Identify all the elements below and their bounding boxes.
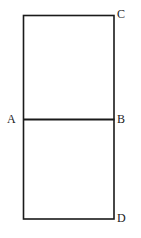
vertex-label-b: B [117, 113, 125, 125]
geometry-figure: C B A D [0, 0, 141, 238]
vertex-label-c: C [117, 8, 125, 20]
vertex-label-a: A [7, 113, 16, 125]
vertex-label-d: D [117, 212, 126, 224]
